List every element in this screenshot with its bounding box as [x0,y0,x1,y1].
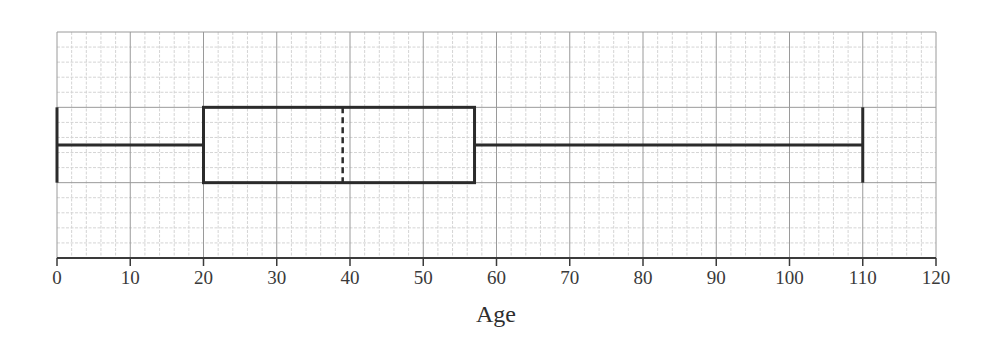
x-tick-label: 120 [922,267,951,288]
x-tick-labels: 0102030405060708090100110120 [52,267,950,288]
x-tick-label: 50 [414,267,433,288]
box-plot-chart: 0102030405060708090100110120 Age [0,0,994,348]
x-tick-label: 70 [560,267,579,288]
x-tick-label: 80 [634,267,653,288]
x-tick-label: 60 [487,267,506,288]
iqr-box [204,107,475,182]
x-tick-label: 100 [775,267,804,288]
x-tick-label: 0 [52,267,62,288]
box-plot [57,107,863,182]
x-tick-label: 90 [707,267,726,288]
x-axis [57,258,936,266]
x-tick-label: 110 [849,267,877,288]
x-axis-title: Age [476,301,516,327]
x-tick-label: 10 [121,267,140,288]
x-tick-label: 30 [267,267,286,288]
x-tick-label: 40 [341,267,360,288]
x-tick-label: 20 [194,267,213,288]
